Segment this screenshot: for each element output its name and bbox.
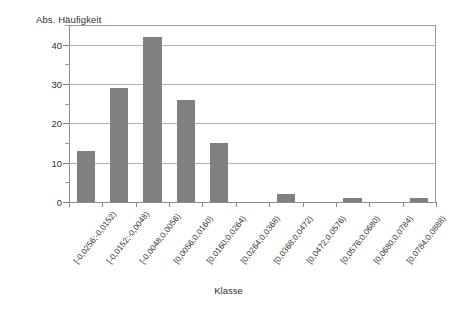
y-axis-tick-label: 30 — [22, 79, 62, 90]
y-axis-tick-label: 10 — [22, 157, 62, 168]
bar — [143, 37, 161, 202]
y-axis-title: Abs. Häufigkeit — [36, 14, 101, 25]
y-axis-tick-label: 40 — [22, 39, 62, 50]
bar — [277, 194, 295, 202]
bar — [77, 151, 95, 202]
y-axis-tick-label: 20 — [22, 118, 62, 129]
x-axis-tick-labels: [-0,0256;-0,0152)[-0,0152;-0,0048)[-0,00… — [0, 202, 457, 282]
bars-layer — [69, 25, 436, 202]
x-axis-title: Klasse — [0, 285, 457, 296]
histogram-chart: Abs. Häufigkeit 010203040 [-0,0256;-0,01… — [0, 0, 457, 311]
bar — [210, 143, 228, 202]
bar — [177, 100, 195, 202]
bar — [110, 88, 128, 202]
